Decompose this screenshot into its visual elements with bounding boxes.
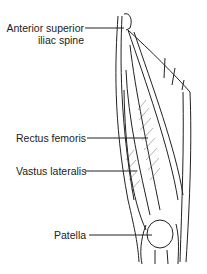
label-asis: Anterior superior iliac spine <box>4 22 84 46</box>
label-asis-line1: Anterior superior <box>4 22 84 34</box>
label-vastus-lateralis: Vastus lateralis <box>16 165 86 177</box>
label-asis-line2: iliac spine <box>4 34 84 46</box>
label-patella: Patella <box>54 229 86 241</box>
label-rectus-femoris: Rectus femoris <box>16 132 86 144</box>
patella-shape <box>147 220 173 248</box>
